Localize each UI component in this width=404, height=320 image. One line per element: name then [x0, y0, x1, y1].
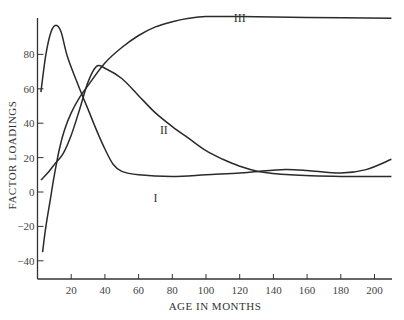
- y-axis-title: FACTOR LOADINGS: [6, 101, 18, 210]
- y-tick-label: 60: [24, 83, 36, 95]
- y-tick-label: 0: [29, 186, 35, 198]
- x-axis: 20406080100120140160180200: [38, 274, 393, 296]
- curve-iii: [43, 16, 392, 252]
- y-tick-label: −40: [17, 255, 35, 267]
- x-tick-label: 100: [198, 284, 215, 296]
- x-axis-title: AGE IN MONTHS: [169, 300, 262, 312]
- y-tick-label: −20: [17, 220, 35, 232]
- x-tick-label: 120: [231, 284, 248, 296]
- y-axis: −40−20020406080: [17, 18, 43, 279]
- factor-loadings-chart: −40−20020406080 204060801001201401601802…: [0, 0, 404, 320]
- x-tick-label: 180: [333, 284, 350, 296]
- x-tick-label: 60: [133, 284, 145, 296]
- x-tick-label: 160: [299, 284, 316, 296]
- y-tick-label: 80: [24, 48, 36, 60]
- x-tick-label: 20: [66, 284, 78, 296]
- curve-label-i: I: [153, 191, 157, 205]
- x-tick-label: 200: [366, 284, 383, 296]
- x-tick-label: 40: [99, 284, 111, 296]
- curve-label-iii: III: [234, 11, 246, 25]
- y-tick-label: 20: [24, 152, 36, 164]
- plot-curves: [41, 16, 392, 252]
- curve-i: [41, 25, 392, 176]
- curve-label-ii: II: [160, 123, 168, 137]
- y-tick-label: 40: [24, 117, 36, 129]
- x-tick-label: 140: [265, 284, 282, 296]
- x-tick-label: 80: [167, 284, 179, 296]
